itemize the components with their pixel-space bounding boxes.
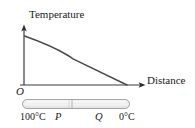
rod-body [23,100,130,109]
x-axis-label: Distance [147,75,185,86]
rod-point-p-label: P [55,112,61,123]
y-axis-label: Temperature [29,9,84,20]
temperature-curve [25,36,128,85]
origin-label: O [16,86,24,97]
conducting-rod [23,100,130,109]
rod-hot-end-label: 100°C [20,112,46,122]
rod-cold-end-label: 0°C [119,112,135,122]
rod-point-q-label: Q [95,112,103,123]
axes-group [20,25,146,88]
temperature-distance-figure: Temperature Distance O 100°C P Q 0°C [0,0,195,128]
